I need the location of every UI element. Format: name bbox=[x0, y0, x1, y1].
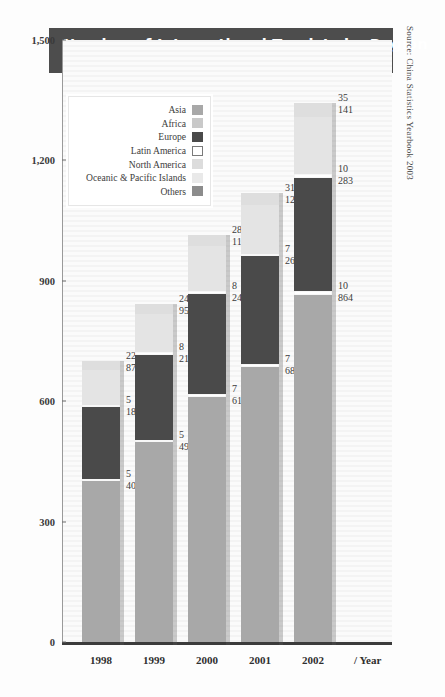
legend-item-label: North America bbox=[129, 159, 186, 170]
x-axis-tick-label: 1999 bbox=[135, 654, 173, 666]
bar-segment[interactable] bbox=[188, 397, 226, 642]
bar-segment[interactable] bbox=[135, 352, 173, 355]
x-axis-tick-label: 2000 bbox=[188, 654, 226, 666]
legend-item-europe[interactable]: Europe bbox=[76, 130, 203, 144]
legend-item-latin-america[interactable]: Latin America bbox=[76, 144, 203, 158]
y-axis-line bbox=[62, 40, 63, 645]
bar-shadow bbox=[332, 103, 336, 645]
y-axis-tick-mark bbox=[62, 280, 66, 281]
legend-item-label: Latin America bbox=[131, 145, 186, 156]
bar-segment[interactable] bbox=[294, 103, 332, 117]
bar-data-label-upper: 35 bbox=[338, 92, 353, 104]
legend-item-label: Asia bbox=[168, 104, 186, 115]
legend-item-others[interactable]: Others bbox=[76, 185, 203, 199]
bar-segment[interactable] bbox=[82, 405, 120, 407]
x-axis-tick-label: 2001 bbox=[241, 654, 279, 666]
bar-segment[interactable] bbox=[82, 361, 120, 370]
bar-data-label-upper: 10 bbox=[338, 163, 353, 175]
bar-shadow bbox=[226, 235, 230, 645]
y-axis-tick-mark bbox=[62, 160, 66, 161]
x-axis-unit: / Year bbox=[354, 654, 381, 666]
bar-segment[interactable] bbox=[294, 174, 332, 178]
bar-segment[interactable] bbox=[82, 481, 120, 642]
bar-segment[interactable] bbox=[135, 440, 173, 442]
y-axis-tick-label: 600 bbox=[39, 396, 55, 407]
y-axis-tick-mark bbox=[62, 521, 66, 522]
bar-segment[interactable] bbox=[135, 355, 173, 440]
bar-data-label-upper: 10 bbox=[338, 280, 353, 292]
bar-segment[interactable] bbox=[82, 407, 120, 480]
bar-stack[interactable] bbox=[82, 361, 120, 642]
y-axis-tick-label: 1,500 bbox=[31, 35, 55, 46]
chart-page: Number of International Tourists by Regi… bbox=[0, 0, 445, 697]
bar-data-label: 10864 bbox=[338, 280, 353, 304]
bar-segment[interactable] bbox=[82, 479, 120, 481]
bar-segment[interactable] bbox=[241, 367, 279, 642]
bar-segment[interactable] bbox=[188, 246, 226, 291]
bar-segment[interactable] bbox=[241, 254, 279, 257]
y-axis-tick-label: 0 bbox=[50, 637, 55, 648]
legend-color-swatch bbox=[192, 118, 203, 128]
legend-color-swatch bbox=[192, 105, 203, 115]
legend-item-north-america[interactable]: North America bbox=[76, 157, 203, 171]
legend-item-label: Oceanic & Pacific Islands bbox=[86, 172, 186, 183]
legend-item-label: Europe bbox=[158, 131, 186, 142]
legend-color-swatch bbox=[192, 146, 203, 156]
bar-data-label-lower: 864 bbox=[338, 292, 353, 304]
y-axis-tick-label: 900 bbox=[39, 275, 55, 286]
bar-segment[interactable] bbox=[188, 235, 226, 246]
legend-color-swatch bbox=[192, 159, 203, 169]
bar-shadow bbox=[173, 304, 177, 645]
bar-stack[interactable] bbox=[294, 103, 332, 642]
legend-item-oceanic-pacific-islands[interactable]: Oceanic & Pacific Islands bbox=[76, 171, 203, 185]
bar-segment[interactable] bbox=[294, 295, 332, 642]
bar-data-label-lower: 283 bbox=[338, 175, 353, 187]
bar-shadow bbox=[279, 193, 283, 645]
bar-stack[interactable] bbox=[241, 193, 279, 642]
bar-segment[interactable] bbox=[188, 394, 226, 397]
chart-legend: AsiaAfricaEuropeLatin AmericaNorth Ameri… bbox=[68, 96, 211, 206]
bar-segment[interactable] bbox=[241, 364, 279, 367]
y-axis-tick-mark bbox=[62, 40, 66, 41]
bar-segment[interactable] bbox=[135, 442, 173, 642]
y-axis-tick-mark bbox=[62, 401, 66, 402]
bar-stack[interactable] bbox=[135, 304, 173, 642]
legend-item-asia[interactable]: Asia bbox=[76, 103, 203, 117]
source-note: Source: China Statistics Yearbook 2003 bbox=[405, 26, 415, 180]
legend-color-swatch bbox=[192, 173, 203, 183]
bar-segment[interactable] bbox=[294, 117, 332, 174]
bar-segment[interactable] bbox=[188, 294, 226, 394]
bar-data-label: 10283 bbox=[338, 163, 353, 187]
bar-segment[interactable] bbox=[241, 193, 279, 205]
legend-item-label: Others bbox=[160, 186, 186, 197]
x-axis-tick-label: 1998 bbox=[82, 654, 120, 666]
bar-segment[interactable] bbox=[294, 291, 332, 295]
y-axis-tick-label: 300 bbox=[39, 516, 55, 527]
bar-data-label: 35141 bbox=[338, 92, 353, 116]
legend-color-swatch bbox=[192, 186, 203, 196]
bar-segment[interactable] bbox=[294, 178, 332, 292]
y-axis-tick-mark bbox=[62, 642, 66, 643]
bar-stack[interactable] bbox=[188, 235, 226, 642]
bar-segment[interactable] bbox=[188, 291, 226, 294]
x-axis-tick-label: 2002 bbox=[294, 654, 332, 666]
bar-segment[interactable] bbox=[135, 304, 173, 314]
bar-segment[interactable] bbox=[241, 256, 279, 364]
bar-segment[interactable] bbox=[241, 205, 279, 253]
legend-item-africa[interactable]: Africa bbox=[76, 117, 203, 131]
bar-shadow bbox=[120, 361, 124, 645]
legend-color-swatch bbox=[192, 132, 203, 142]
legend-item-label: Africa bbox=[162, 118, 187, 129]
y-axis-tick-label: 1,200 bbox=[31, 155, 55, 166]
bar-segment[interactable] bbox=[135, 314, 173, 352]
bar-segment[interactable] bbox=[82, 370, 120, 405]
bar-data-label-lower: 141 bbox=[338, 104, 353, 116]
